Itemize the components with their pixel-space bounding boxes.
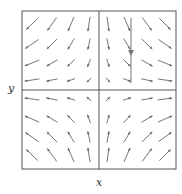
arrowhead-icon [87,115,89,118]
vector-field-plot [0,0,182,194]
y-axis-label: y [8,82,14,95]
arrowhead-icon [67,97,70,99]
arrowhead-icon [128,50,134,56]
field-arrows [25,17,173,162]
x-axis-label: x [96,176,102,189]
arrowhead-icon [107,64,109,67]
arrowhead-icon [128,97,131,99]
arrowhead-icon [67,79,70,81]
